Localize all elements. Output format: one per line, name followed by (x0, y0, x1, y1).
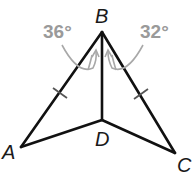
geometry-figure: 36° 32° B D A C (0, 0, 196, 178)
vertex-label-b: B (95, 5, 108, 27)
segment-bc (102, 32, 175, 153)
angle-arc-abd-inner (88, 55, 92, 70)
segment-ad (21, 120, 102, 147)
vertex-label-c: C (177, 154, 192, 176)
tick-marks (53, 88, 148, 99)
angle-label-abd: 36° (43, 21, 72, 42)
segment-ab (21, 32, 102, 147)
vertex-label-d: D (95, 128, 109, 150)
vertex-label-a: A (1, 141, 15, 163)
angle-label-dbc: 32° (140, 21, 169, 42)
